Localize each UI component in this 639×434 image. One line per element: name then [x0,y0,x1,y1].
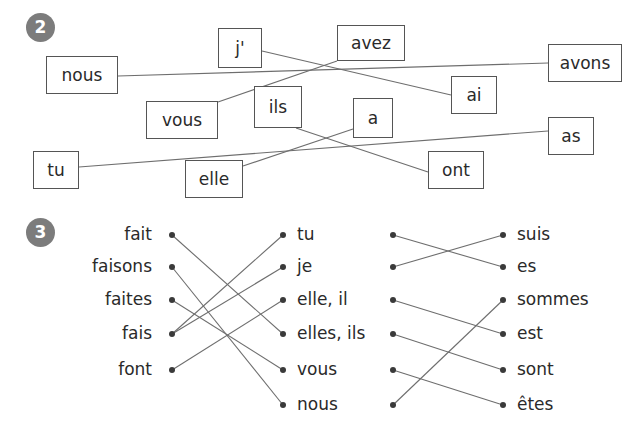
etre-form-dot-êtes[interactable] [500,402,506,408]
faire-line-fais-tu [172,235,283,334]
word-box-ai[interactable]: ai [451,76,497,114]
faire-form-dot-faisons[interactable] [169,264,175,270]
faire-pronoun-nous: nous [297,394,338,414]
faire-form-faisons: faisons [0,256,152,276]
etre-form-dot-sommes[interactable] [500,297,506,303]
word-box-vous[interactable]: vous [146,101,218,139]
etre-pronoun-dot-ellesils[interactable] [390,331,396,337]
faire-pronoun-dot-nous[interactable] [280,402,286,408]
etre-pronoun-dot-je[interactable] [390,264,396,270]
word-box-avez[interactable]: avez [337,25,405,61]
faire-pronoun-je: je [297,256,312,276]
faire-pronoun-dot-je[interactable] [280,264,286,270]
word-box-as[interactable]: as [548,117,594,155]
etre-form-êtes: êtes [517,394,553,414]
word-box-avons[interactable]: avons [548,44,622,82]
etre-form-suis: suis [517,224,550,244]
etre-form-dot-est[interactable] [500,331,506,337]
word-box-a[interactable]: a [353,98,393,138]
faire-line-font-elleil [172,300,283,370]
faire-pronoun-vous: vous [297,359,337,379]
faire-form-faites: faites [0,289,152,309]
faire-pronoun-ellesils: elles, ils [297,323,365,343]
etre-form-es: es [517,256,536,276]
etre-pronoun-dot-nous[interactable] [390,402,396,408]
word-box-j[interactable]: j' [218,28,262,68]
faire-line-fait-ellesils [172,235,283,334]
etre-line-tu-es [393,235,503,267]
faire-pronoun-elleil: elle, il [297,289,348,309]
etre-form-est: est [517,323,543,343]
word-box-ils[interactable]: ils [254,86,302,128]
word-box-tu[interactable]: tu [33,151,79,189]
faire-pronoun-dot-elleil[interactable] [280,297,286,303]
faire-form-dot-font[interactable] [169,367,175,373]
faire-pronoun-dot-ellesils[interactable] [280,331,286,337]
etre-form-sommes: sommes [517,289,589,309]
etre-form-dot-sont[interactable] [500,367,506,373]
etre-pronoun-dot-vous[interactable] [390,367,396,373]
etre-form-dot-es[interactable] [500,264,506,270]
word-box-ont[interactable]: ont [428,151,484,189]
faire-line-faisons-nous [172,267,283,405]
faire-form-dot-faites[interactable] [169,297,175,303]
worksheet-page: 2 nousj'avezavonsaivousilsaastuelleont 3… [0,0,639,434]
faire-pronoun-dot-vous[interactable] [280,367,286,373]
faire-form-dot-fait[interactable] [169,232,175,238]
faire-form-dot-fais[interactable] [169,331,175,337]
faire-pronoun-tu: tu [297,224,314,244]
faire-form-fait: fait [0,224,152,244]
etre-line-elleil-est [393,300,503,334]
faire-form-font: font [0,359,152,379]
faire-form-fais: fais [0,323,152,343]
etre-line-je-suis [393,235,503,267]
faire-pronoun-dot-tu[interactable] [280,232,286,238]
etre-line-ellesils-sont [393,334,503,370]
faire-line-faites-vous [172,300,283,370]
faire-line-fais-je [172,267,283,334]
etre-form-sont: sont [517,359,554,379]
etre-line-nous-sommes [393,300,503,405]
etre-form-dot-suis[interactable] [500,232,506,238]
etre-pronoun-dot-tu[interactable] [390,232,396,238]
word-box-nous[interactable]: nous [46,56,118,94]
etre-pronoun-dot-elleil[interactable] [390,297,396,303]
word-box-elle[interactable]: elle [185,160,243,198]
etre-line-vous-tes [393,370,503,405]
